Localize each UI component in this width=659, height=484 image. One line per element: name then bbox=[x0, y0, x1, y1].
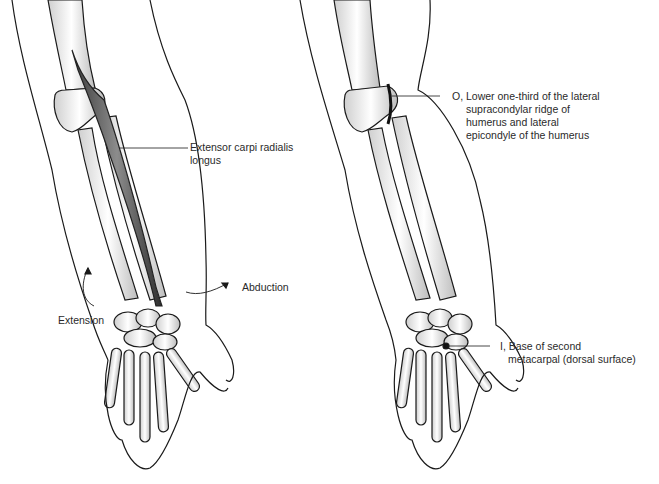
humerus bbox=[334, 0, 380, 90]
insertion-label-line1: I, Base of second bbox=[500, 340, 581, 352]
anatomy-illustration bbox=[0, 0, 659, 484]
muscle-label-line2: longus bbox=[190, 154, 221, 166]
insertion-label: I, Base of second metacarpal (dorsal sur… bbox=[500, 340, 636, 366]
right-hand bbox=[396, 309, 494, 442]
origin-label-line1: O, Lower one-third of the lateral bbox=[452, 90, 600, 102]
abduction-arrow bbox=[186, 283, 228, 294]
origin-label-line3: humerus and lateral bbox=[452, 116, 600, 129]
muscle-label: Extensor carpi radialis longus bbox=[190, 141, 293, 167]
right-arm-drawing bbox=[300, 0, 524, 469]
insertion-label-line2: metacarpal (dorsal surface) bbox=[500, 353, 636, 366]
muscle-label-line1: Extensor carpi radialis bbox=[190, 141, 293, 153]
humerus bbox=[48, 0, 95, 90]
origin-label-line4: epicondyle of the humerus bbox=[452, 129, 600, 142]
origin-label-line2: supracondylar ridge of bbox=[452, 103, 600, 116]
origin-label: O, Lower one-third of the lateral suprac… bbox=[452, 90, 600, 142]
abduction-label: Abduction bbox=[242, 281, 289, 294]
extension-label: Extension bbox=[58, 314, 104, 327]
left-arm-drawing bbox=[12, 0, 234, 469]
left-hand bbox=[104, 309, 202, 442]
